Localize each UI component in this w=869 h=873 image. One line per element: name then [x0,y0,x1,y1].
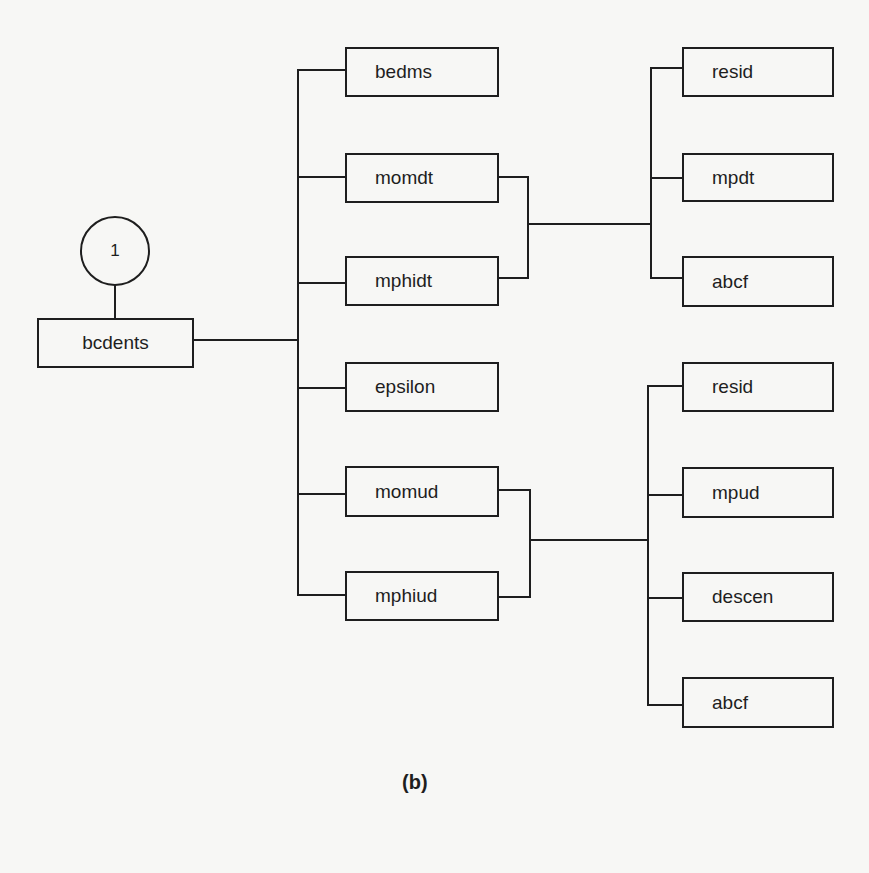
node-label: mphiud [375,585,437,607]
node-label: momud [375,481,438,503]
diagram-canvas: 1 bcdents bedms momdt mphidt epsilon mom… [0,0,869,873]
node-label: momdt [375,167,433,189]
connector-circle: 1 [80,216,150,286]
bracket-dt [498,177,528,278]
node-abcf-dt: abcf [682,256,834,307]
node-abcf-ud: abcf [682,677,834,728]
node-bcdents: bcdents [37,318,194,368]
node-resid-ud: resid [682,362,834,412]
bracket-ud [498,490,530,597]
node-label: mpdt [712,167,754,189]
node-bedms: bedms [345,47,499,97]
node-mphidt: mphidt [345,256,499,306]
node-mpdt: mpdt [682,153,834,202]
node-label: bcdents [82,332,149,354]
node-label: descen [712,586,773,608]
node-epsilon: epsilon [345,362,499,412]
node-momud: momud [345,466,499,517]
node-label: abcf [712,271,748,293]
node-descen: descen [682,572,834,622]
connector-label: 1 [110,241,119,261]
node-label: resid [712,376,753,398]
node-momdt: momdt [345,153,499,203]
figure-caption: (b) [402,771,428,794]
node-label: mphidt [375,270,432,292]
node-label: resid [712,61,753,83]
node-label: mpud [712,482,760,504]
node-mpud: mpud [682,467,834,518]
connector-lines [0,0,869,873]
node-label: bedms [375,61,432,83]
node-resid-dt: resid [682,47,834,97]
node-label: epsilon [375,376,435,398]
caption-label: (b) [402,771,428,793]
node-label: abcf [712,692,748,714]
node-mphiud: mphiud [345,571,499,621]
